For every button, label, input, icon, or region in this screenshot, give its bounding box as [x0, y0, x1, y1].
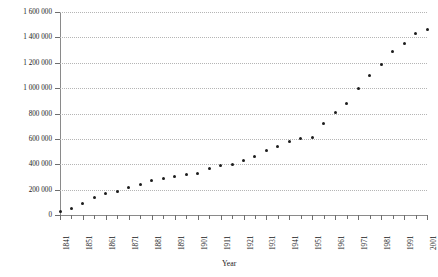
x-axis-tick-label: 1941	[292, 236, 300, 250]
data-point	[70, 207, 73, 210]
x-axis-tick-label: 1921	[247, 236, 255, 250]
data-point	[116, 190, 119, 193]
y-axis-tick	[55, 164, 60, 165]
x-axis-tick-label: 1891	[178, 236, 186, 250]
data-point	[162, 177, 165, 180]
data-point	[426, 28, 429, 31]
x-axis-tick-label: 1971	[361, 236, 369, 250]
x-axis-tick-minor	[117, 215, 118, 219]
x-axis-tick-minor	[163, 215, 164, 219]
y-axis-tick	[55, 12, 60, 13]
x-axis-tick-major	[289, 215, 290, 220]
x-axis-tick-major	[129, 215, 130, 220]
data-point	[208, 167, 211, 170]
y-axis-tick-label: 800 000	[29, 110, 52, 118]
gridline	[60, 164, 427, 165]
x-axis-tick-major	[152, 215, 153, 220]
x-axis-tick-label: 1841	[63, 236, 71, 250]
x-axis-tick-label: 1931	[269, 236, 277, 250]
x-axis-tick-major	[335, 215, 336, 220]
x-axis-tick-minor	[186, 215, 187, 219]
x-axis-tick-label: 1951	[315, 236, 323, 250]
x-axis-tick-minor	[232, 215, 233, 219]
y-axis-tick	[55, 37, 60, 38]
gridline	[60, 114, 427, 115]
x-axis-tick-minor	[140, 215, 141, 219]
x-axis-tick-major	[404, 215, 405, 220]
data-point	[242, 159, 245, 162]
x-axis-tick-major	[266, 215, 267, 220]
x-axis-tick-major	[60, 215, 61, 220]
x-axis-tick-minor	[370, 215, 371, 219]
data-point	[368, 74, 371, 77]
x-axis-tick-label: 1961	[338, 236, 346, 250]
gridline	[60, 37, 427, 38]
x-axis-tick-major	[427, 215, 428, 220]
x-axis-tick-label: 1861	[109, 236, 117, 250]
y-axis-tick-label: 1 600 000	[23, 8, 52, 16]
x-axis-tick-minor	[255, 215, 256, 219]
data-point	[93, 196, 96, 199]
data-point	[150, 179, 153, 182]
x-axis-tick-major	[106, 215, 107, 220]
x-axis-tick-minor	[324, 215, 325, 219]
gridline	[60, 139, 427, 140]
y-axis-tick	[55, 63, 60, 64]
data-point	[219, 164, 222, 167]
x-axis-tick-minor	[393, 215, 394, 219]
x-axis-tick-minor	[209, 215, 210, 219]
data-point	[139, 183, 142, 186]
x-axis-tick-label: 1981	[384, 236, 392, 250]
y-axis-tick-label: 400 000	[29, 160, 52, 168]
y-axis-tick-label: 1 400 000	[23, 33, 52, 41]
data-point	[357, 87, 360, 90]
y-axis-tick-label: 0	[48, 211, 52, 219]
y-axis-tick-label: 1 200 000	[23, 59, 52, 67]
x-axis-tick-major	[312, 215, 313, 220]
x-axis-tick-label: 1851	[86, 236, 94, 250]
data-point	[196, 172, 199, 175]
x-axis-tick-minor	[278, 215, 279, 219]
data-point	[185, 173, 188, 176]
data-point	[299, 137, 302, 140]
x-axis-tick-minor	[347, 215, 348, 219]
data-point	[265, 149, 268, 152]
x-axis-tick-major	[358, 215, 359, 220]
data-point	[81, 202, 84, 205]
y-axis-tick	[55, 114, 60, 115]
gridline	[60, 12, 427, 13]
x-axis-tick-label: 1991	[407, 236, 415, 250]
gridline	[60, 88, 427, 89]
data-point	[253, 155, 256, 158]
x-axis-tick-label: 1911	[224, 236, 232, 250]
x-axis-tick-major	[244, 215, 245, 220]
data-point	[334, 111, 337, 114]
data-point	[380, 63, 383, 66]
x-axis-tick-label: 2001	[430, 236, 438, 250]
x-axis-tick-minor	[301, 215, 302, 219]
data-point	[173, 175, 176, 178]
gridline	[60, 63, 427, 64]
data-point	[414, 32, 417, 35]
x-axis-tick-major	[198, 215, 199, 220]
x-axis-tick-minor	[94, 215, 95, 219]
y-axis-tick	[55, 139, 60, 140]
data-point	[322, 122, 325, 125]
x-axis-tick-minor	[71, 215, 72, 219]
y-axis-tick	[55, 88, 60, 89]
data-point	[276, 145, 279, 148]
data-point	[403, 42, 406, 45]
x-axis-tick-label: 1901	[201, 236, 209, 250]
data-point	[311, 136, 314, 139]
x-axis-tick-major	[175, 215, 176, 220]
data-point	[288, 140, 291, 143]
y-axis-tick-label: 600 000	[29, 135, 52, 143]
x-axis-tick-label: 1871	[132, 236, 140, 250]
data-point	[345, 102, 348, 105]
x-axis-tick-major	[221, 215, 222, 220]
data-point	[231, 163, 234, 166]
x-axis-tick-major	[381, 215, 382, 220]
x-axis-tick-major	[83, 215, 84, 220]
x-axis-title: Year	[222, 259, 236, 268]
